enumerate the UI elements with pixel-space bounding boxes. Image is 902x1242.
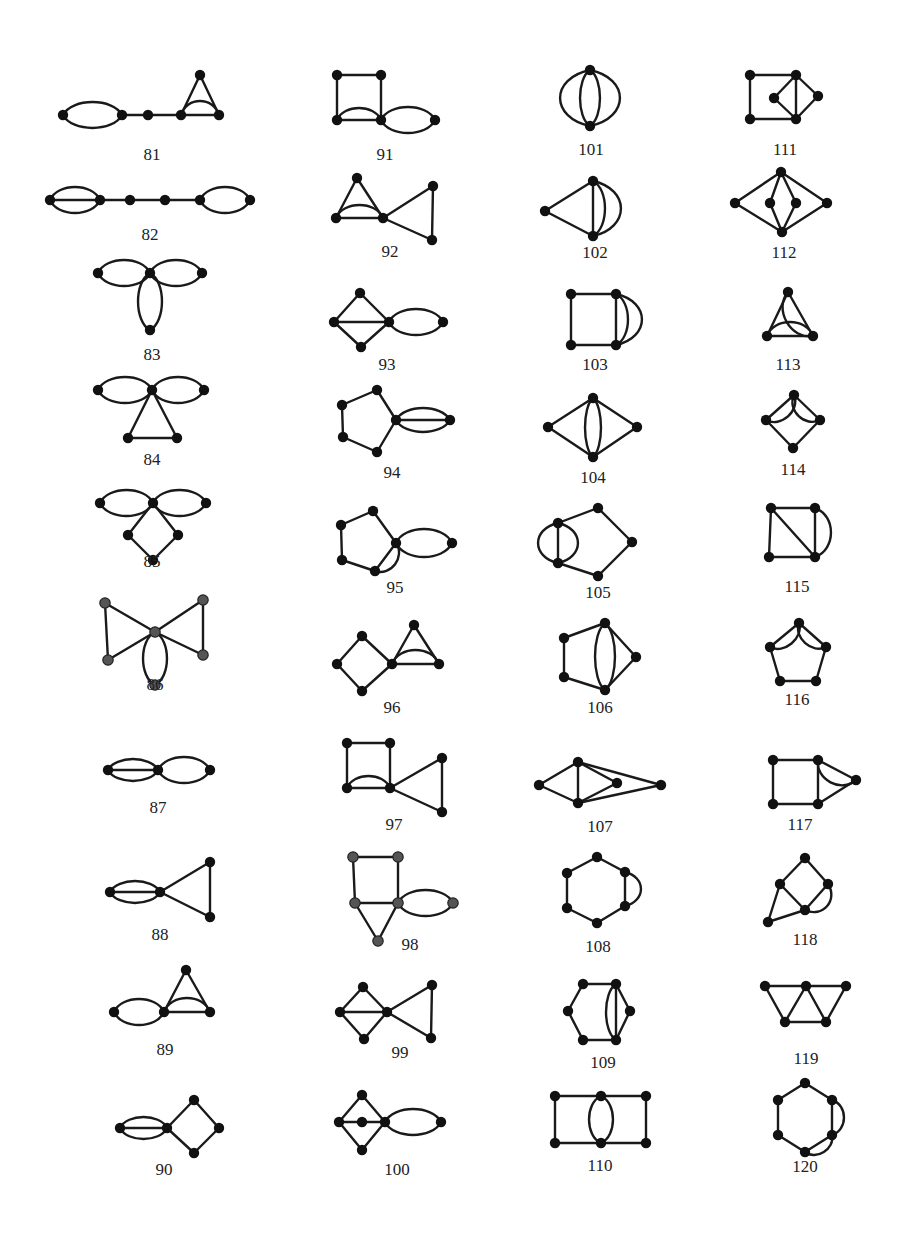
graph-vertex — [631, 652, 641, 662]
graph-vertex — [355, 288, 365, 298]
graph-edge — [114, 1012, 164, 1025]
graph-vertex — [553, 558, 563, 568]
graph-vertex — [338, 432, 348, 442]
graph-vertex — [600, 685, 610, 695]
graph-87: 87 — [103, 757, 215, 817]
graph-vertex — [380, 1117, 390, 1127]
graph-vertex — [543, 422, 553, 432]
graph-vertex — [199, 385, 209, 395]
graph-vertex — [600, 618, 610, 628]
graph-edge — [815, 508, 831, 557]
graph-vertex — [198, 595, 208, 605]
graph-vertex — [162, 1123, 172, 1133]
graph-vertex — [214, 1123, 224, 1133]
graph-number-label: 110 — [588, 1156, 613, 1175]
graph-edge — [114, 999, 164, 1012]
graph-vertex — [123, 433, 133, 443]
graph-vertex — [821, 1017, 831, 1027]
graph-edge — [832, 1100, 844, 1135]
graph-vertex — [827, 1130, 837, 1140]
graph-94: 94 — [337, 385, 455, 482]
graph-vertex — [378, 213, 388, 223]
graph-edge — [362, 1095, 385, 1122]
graph-vertex — [611, 1035, 621, 1045]
graph-edge — [398, 903, 453, 916]
graph-vertex — [563, 1006, 573, 1016]
graph-84: 84 — [93, 377, 209, 469]
graph-edge — [593, 398, 601, 457]
graph-vertex — [372, 385, 382, 395]
graph-vertex — [356, 342, 366, 352]
graph-100: 100 — [334, 1090, 446, 1179]
graph-edge — [361, 322, 389, 347]
graph-vertex — [150, 627, 160, 637]
graph-vertex — [147, 385, 157, 395]
graph-vertex — [592, 852, 602, 862]
graph-vertex — [788, 443, 798, 453]
graph-vertex — [123, 530, 133, 540]
graph-vertex — [58, 110, 68, 120]
graph-edge — [342, 390, 377, 405]
graph-edge — [339, 1122, 362, 1150]
graph-edge — [770, 623, 799, 647]
graph-edge — [167, 1100, 194, 1128]
graph-edge — [158, 770, 210, 783]
graph-edge — [396, 408, 450, 420]
graph-number-label: 112 — [772, 243, 797, 262]
graph-vertex — [534, 780, 544, 790]
graph-vertex — [811, 676, 821, 686]
graph-113: 113 — [762, 287, 818, 374]
graph-edge — [805, 858, 828, 884]
graph-number-label: 111 — [773, 140, 797, 159]
graph-vertex — [160, 195, 170, 205]
graph-vertex — [173, 530, 183, 540]
graph-114: 114 — [761, 390, 825, 479]
graph-edge — [539, 785, 578, 803]
graph-number-label: 81 — [144, 145, 161, 164]
graph-vertex — [827, 1095, 837, 1105]
graph-edge — [50, 200, 100, 213]
graph-edge — [362, 1122, 385, 1150]
graph-edge — [539, 762, 578, 785]
graph-vertex — [656, 780, 666, 790]
graph-vertex — [550, 1091, 560, 1101]
graph-vertex — [105, 887, 115, 897]
graph-101: 101 — [560, 65, 620, 159]
graph-99: 99 — [335, 980, 437, 1062]
graph-edge — [390, 758, 442, 788]
graph-92: 92 — [331, 173, 438, 261]
graph-number-label: 107 — [587, 817, 613, 836]
graph-vertex — [745, 70, 755, 80]
graph-edge — [63, 115, 122, 128]
graph-vertex — [352, 173, 362, 183]
graph-95: 95 — [336, 506, 457, 597]
graph-vertex — [189, 1095, 199, 1105]
graph-vertex — [765, 198, 775, 208]
graph-vertex — [159, 1007, 169, 1017]
graph-vertex — [448, 898, 458, 908]
graph-vertex — [336, 520, 346, 530]
graph-edge — [590, 70, 600, 126]
graph-edge — [152, 390, 204, 403]
graph-107: 107 — [534, 757, 666, 836]
graph-vertex — [337, 555, 347, 565]
graph-vertex — [125, 195, 135, 205]
graph-edge — [98, 390, 152, 403]
graph-vertex — [578, 1035, 588, 1045]
graph-edge — [108, 632, 155, 660]
graph-86: 86 — [100, 595, 208, 694]
graph-vertex — [342, 783, 352, 793]
graph-edge — [98, 260, 150, 273]
graph-edge — [387, 1012, 431, 1038]
graph-vertex — [800, 1147, 810, 1157]
graph-edge — [606, 984, 616, 1040]
graph-number-label: 87 — [150, 798, 168, 817]
graph-edge — [355, 903, 378, 941]
graph-edge — [578, 785, 661, 803]
graph-edge — [150, 260, 202, 273]
graph-vertex — [780, 1017, 790, 1027]
graph-edge — [799, 623, 826, 647]
graph-edge — [432, 186, 433, 240]
graph-vertex — [103, 765, 113, 775]
graph-vertex — [427, 235, 437, 245]
